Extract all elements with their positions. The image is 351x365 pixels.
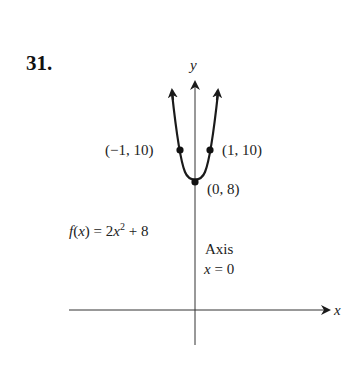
point-1-10 — [206, 146, 213, 153]
vertex-label: (0, 8) — [207, 181, 240, 198]
function-label: f(x) = 2x2 + 8 — [69, 221, 148, 240]
axis-of-symmetry-title: Axis — [205, 241, 234, 257]
parabola-graph: y x (−1, 10) (1, 10) (0, 8) f(x) = 2x2 +… — [0, 0, 351, 365]
vertex-point — [191, 178, 198, 185]
x-axis-label: x — [333, 302, 341, 318]
point-label-1-10: (1, 10) — [222, 142, 262, 159]
point-neg1-10 — [176, 146, 183, 153]
point-label-neg1-10: (−1, 10) — [105, 142, 153, 159]
axis-of-symmetry-equation: x = 0 — [203, 261, 234, 277]
y-axis-label: y — [188, 57, 197, 73]
